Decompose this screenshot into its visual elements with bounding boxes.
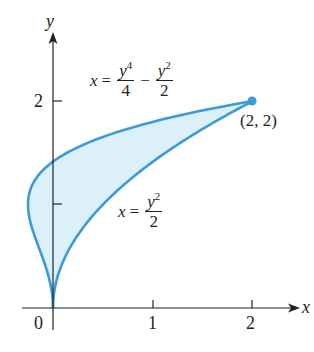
eq1-t1-den: 4 [121, 81, 130, 99]
eq2-equals: = [130, 203, 140, 220]
y-tick-label-2: 2 [34, 92, 43, 110]
eq2-base: y [147, 192, 155, 211]
eq1-equals: = [102, 72, 112, 89]
point-label: (2, 2) [240, 112, 277, 129]
eq1-t2-exp: 2 [165, 59, 171, 71]
y-axis-label: y [46, 12, 54, 30]
eq1-t1-base: y [119, 61, 127, 80]
eq1-t2-den: 2 [160, 81, 169, 99]
eq1-fraction-2: y2 2 [156, 62, 173, 99]
eq2-exp: 2 [155, 190, 161, 202]
eq1-fraction-1: y4 4 [117, 62, 134, 99]
eq1-lhs: x [90, 72, 98, 89]
parabola-equation-label: x = y2 2 [118, 193, 164, 230]
quartic-equation-label: x = y4 4 − y2 2 [90, 62, 175, 99]
figure: y x 0 1 2 2 (2, 2) x = y4 4 − y2 2 x = y… [0, 0, 314, 352]
eq1-t1-exp: 4 [127, 59, 133, 71]
x-tick-label-0: 0 [34, 314, 43, 332]
intersection-point [248, 97, 257, 106]
eq2-den: 2 [149, 212, 158, 230]
x-tick-label-1: 1 [148, 314, 157, 332]
x-axis-label: x [302, 298, 310, 316]
eq1-minus: − [140, 72, 150, 89]
plot-canvas [0, 0, 314, 352]
eq2-lhs: x [118, 203, 126, 220]
x-tick-label-2: 2 [246, 314, 255, 332]
eq2-fraction: y2 2 [145, 193, 162, 230]
